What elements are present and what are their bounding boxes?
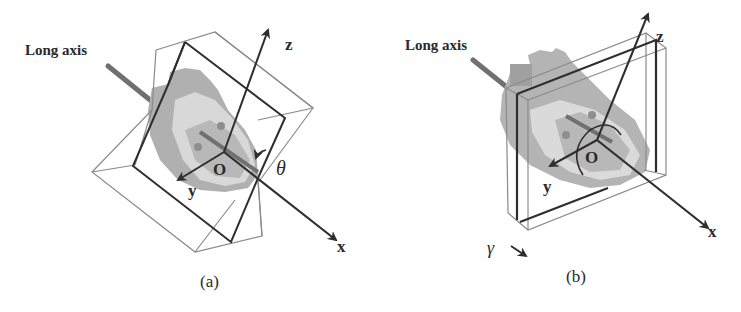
y-axis-label: y <box>543 177 552 196</box>
panel-b: Long axis z O y x γ (b) <box>405 14 717 286</box>
heart-illustration <box>500 48 650 188</box>
theta-rotation-arrow <box>256 150 266 158</box>
long-axis-label: Long axis <box>405 37 467 53</box>
z-axis-label: z <box>285 35 293 54</box>
long-axis-line <box>108 66 155 104</box>
x-axis-label: x <box>337 237 346 256</box>
gamma-label: γ <box>487 238 495 258</box>
x-axis-label: x <box>708 222 717 241</box>
caption-a: (a) <box>200 272 219 291</box>
long-axis-label: Long axis <box>25 42 87 58</box>
origin-label: O <box>585 148 598 167</box>
theta-label: θ <box>276 157 286 179</box>
panel-a: Long axis z O y θ x (a) <box>25 30 346 291</box>
gamma-arrow <box>511 246 526 256</box>
y-axis-label: y <box>188 181 197 200</box>
long-axis-line <box>473 60 508 88</box>
heart-illustration <box>148 68 258 192</box>
z-axis-label: z <box>656 27 664 46</box>
caption-b: (b) <box>566 267 586 286</box>
origin-label: O <box>213 160 226 179</box>
figure-canvas: Long axis z O y θ x (a) <box>0 0 741 312</box>
